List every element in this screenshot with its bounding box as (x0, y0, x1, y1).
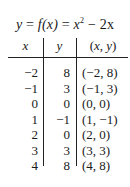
table-cell-x: 0 (8, 96, 38, 112)
table-cell-x: −2 (8, 65, 38, 81)
title-eq2: = (58, 17, 74, 32)
table-cell-pair: (2, 0) (82, 127, 130, 143)
table-cell-pair: (−1, 3) (82, 81, 130, 97)
table-cell-x: −1 (8, 81, 38, 97)
table-cell-y: −1 (44, 112, 70, 128)
column-divider-2 (76, 38, 77, 166)
table-cell-y: 0 (44, 96, 70, 112)
table-cell-y: 8 (44, 158, 70, 174)
header-pair: (x, y) (78, 38, 128, 56)
table-cell-x: 2 (8, 127, 38, 143)
table-cell-x: 3 (8, 143, 38, 159)
header-divider (8, 57, 128, 58)
header-x: x (8, 38, 43, 56)
header-y: y (43, 38, 76, 56)
table-cell-y: 3 (44, 143, 70, 159)
title-fn: f(x) (38, 17, 58, 32)
table-cell-pair: (1, −1) (82, 112, 130, 128)
table-cell-x: 1 (8, 112, 38, 128)
table-cell-y: 3 (44, 81, 70, 97)
table-cell-pair: (4, 8) (82, 158, 130, 174)
table-cell-pair: (3, 3) (82, 143, 130, 159)
table-cell-pair: (0, 0) (82, 96, 130, 112)
title-eq1: = (22, 17, 38, 32)
table-cell-pair: (−2, 8) (82, 65, 130, 81)
title-exp: 2 (80, 16, 84, 25)
table-cell-x: 4 (8, 158, 38, 174)
table-cell-y: 0 (44, 127, 70, 143)
title-rest: − 2x (84, 17, 114, 32)
function-title: y = f(x) = x2 − 2x (0, 17, 130, 33)
table-cell-y: 8 (44, 65, 70, 81)
